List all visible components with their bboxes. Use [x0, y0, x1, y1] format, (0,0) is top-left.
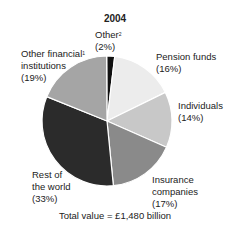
label-rest-of-world: Rest ofthe world(33%) — [32, 169, 71, 205]
total-value: Total value = £1,480 billion — [0, 210, 230, 221]
label-individuals: Individuals(14%) — [178, 100, 223, 124]
label-pension-funds: Pension funds(16%) — [156, 51, 216, 75]
label-insurance-companies: Insurancecompanies(17%) — [152, 174, 198, 210]
label-other-financial: Other financial1institutions(19%) — [21, 48, 85, 84]
label-other: Other2 (2%) — [95, 29, 122, 53]
